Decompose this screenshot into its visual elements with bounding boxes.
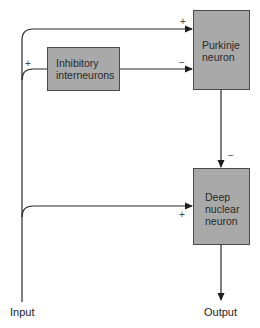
minus-sign-purkinje-deep-nuclear: − — [228, 151, 234, 161]
input-to-inhibitory-line — [22, 69, 47, 80]
inhibitory-label-line2: interneurons — [56, 69, 114, 82]
plus-sign-input-deep-nuclear: + — [179, 210, 185, 220]
output-label: Output — [204, 306, 237, 318]
inhibitory-label-line1: Inhibitory — [56, 57, 99, 70]
purkinje-label-line1: Purkinje — [202, 39, 240, 52]
plus-sign-input-purkinje: + — [180, 17, 186, 27]
inhibitory-interneurons-node: Inhibitory interneurons — [47, 47, 120, 91]
input-label: Input — [10, 306, 34, 318]
purkinje-neuron-node: Purkinje neuron — [193, 10, 250, 90]
diagram-canvas: Inhibitory interneurons Purkinje neuron … — [0, 0, 260, 328]
input-to-deep-nuclear-line — [22, 206, 192, 217]
deep-nuclear-label-line3: neuron — [205, 215, 238, 228]
deep-nuclear-label-line2: nuclear — [205, 203, 239, 216]
purkinje-label-line2: neuron — [202, 51, 235, 64]
deep-nuclear-label-line1: Deep — [205, 191, 230, 204]
plus-sign-input-inhibitory: + — [25, 59, 31, 69]
deep-nuclear-neuron-node: Deep nuclear neuron — [193, 168, 250, 245]
minus-sign-inhibitory-purkinje: − — [179, 58, 185, 68]
